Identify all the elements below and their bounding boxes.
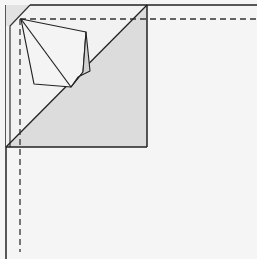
origami-diagram	[0, 0, 257, 259]
diagram-svg	[0, 0, 257, 259]
